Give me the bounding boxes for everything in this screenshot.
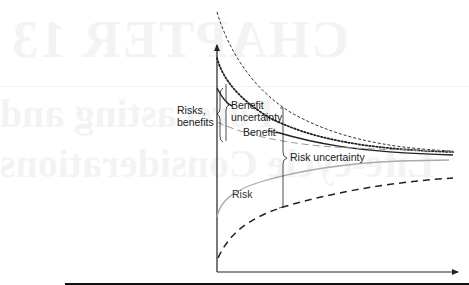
benefit-curve <box>217 88 232 106</box>
risk-label: Risk <box>232 188 252 200</box>
benefit-label: Benefit <box>243 126 276 138</box>
y-axis-label-line1: Risks, <box>177 104 214 116</box>
y-axis-label: Risks, benefits <box>177 104 214 128</box>
risk-uncertainty-label: Risk uncertainty <box>290 151 365 163</box>
risk-uncertainty-brace <box>279 108 287 208</box>
risk-lower-bound-curve <box>218 178 453 258</box>
figure-stage: CHAPTER 13 Forecasting and Life-cycle Co… <box>0 0 469 285</box>
risk-benefit-diagram <box>0 0 469 285</box>
benefit-uncertainty-label-line1: Benefit <box>231 99 282 111</box>
y-axis-label-line2: benefits <box>177 116 214 128</box>
benefit-uncertainty-label: Benefit uncertainty <box>231 99 282 123</box>
benefit-uncertainty-brace <box>226 84 229 141</box>
benefit-uncertainty-label-line2: uncertainty <box>231 111 282 123</box>
